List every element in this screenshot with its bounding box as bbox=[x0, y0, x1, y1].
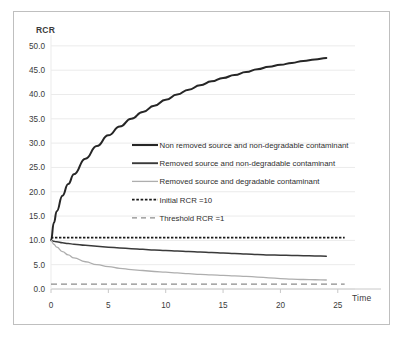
y-axis-ticks: 0.05.010.015.020.025.030.035.040.045.050… bbox=[29, 42, 45, 294]
x-axis-tick-label: 15 bbox=[219, 301, 229, 310]
x-axis-tick-label: 5 bbox=[106, 301, 111, 310]
x-axis-tick-label: 25 bbox=[333, 301, 343, 310]
y-axis-tick-label: 30.0 bbox=[29, 139, 45, 148]
y-axis-tick-label: 40.0 bbox=[29, 90, 45, 99]
rcr-time-line-chart: 0.05.010.015.020.025.030.035.040.045.050… bbox=[14, 12, 389, 324]
x-axis-tick-label: 10 bbox=[161, 301, 171, 310]
legend-label: Removed source and non-degradable contam… bbox=[160, 159, 336, 168]
legend-label: Removed source and degradable contaminan… bbox=[160, 177, 321, 186]
x-axis-ticks: 0510152025 bbox=[49, 289, 343, 310]
legend-item: Initial RCR =10 bbox=[132, 196, 213, 205]
y-axis-tick-label: 0.0 bbox=[34, 285, 46, 294]
x-axis-title: Time bbox=[352, 293, 371, 303]
y-axis-tick-label: 50.0 bbox=[29, 42, 45, 51]
y-axis-tick-label: 35.0 bbox=[29, 115, 45, 124]
y-axis-tick-label: 45.0 bbox=[29, 66, 45, 75]
y-axis-title: RCR bbox=[36, 25, 55, 35]
chart-frame: 0.05.010.015.020.025.030.035.040.045.050… bbox=[13, 11, 390, 325]
legend-item: Removed source and degradable contaminan… bbox=[132, 177, 320, 186]
data-series bbox=[51, 58, 326, 280]
legend-item: Removed source and non-degradable contam… bbox=[132, 159, 336, 168]
legend-item: Non removed source and non-degradable co… bbox=[132, 141, 349, 150]
x-axis-tick-label: 20 bbox=[276, 301, 286, 310]
y-axis-tick-label: 15.0 bbox=[29, 212, 45, 221]
y-axis-tick-label: 10.0 bbox=[29, 236, 45, 245]
chart-legend: Non removed source and non-degradable co… bbox=[132, 141, 349, 223]
reference-lines bbox=[51, 238, 345, 284]
y-axis-tick-label: 20.0 bbox=[29, 188, 45, 197]
y-axis-tick-label: 5.0 bbox=[34, 261, 46, 270]
chart-figure: 0.05.010.015.020.025.030.035.040.045.050… bbox=[0, 0, 405, 343]
legend-label: Threshold RCR =1 bbox=[160, 214, 225, 223]
legend-item: Threshold RCR =1 bbox=[132, 214, 224, 223]
y-axis-tick-label: 25.0 bbox=[29, 163, 45, 172]
series-line bbox=[51, 240, 326, 256]
legend-label: Initial RCR =10 bbox=[160, 196, 213, 205]
x-axis-tick-label: 0 bbox=[49, 301, 54, 310]
legend-label: Non removed source and non-degradable co… bbox=[160, 141, 350, 150]
